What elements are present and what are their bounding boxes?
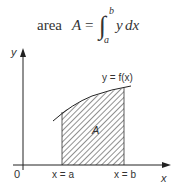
region-label: A	[91, 124, 99, 136]
formula-differential: dx	[125, 17, 140, 33]
area-formula: area A = ∫ b a y dx	[37, 5, 140, 45]
right-bound-label: x = b	[114, 169, 136, 180]
upper-limit: b	[109, 5, 114, 16]
left-bound-label: x = a	[52, 169, 74, 180]
y-axis-arrow-icon	[20, 48, 26, 57]
area-under-curve-diagram: area A = ∫ b a y dx y x 0 y = f(x) A x =…	[0, 0, 176, 186]
formula-variable: A	[71, 17, 82, 33]
lower-limit: a	[104, 34, 109, 45]
formula-prefix: area	[37, 17, 62, 33]
x-axis-arrow-icon	[162, 162, 171, 168]
y-axis-label: y	[10, 46, 18, 58]
formula-equals: =	[85, 17, 93, 33]
formula-integrand: y	[114, 17, 123, 33]
x-axis-label: x	[160, 172, 167, 184]
origin-label: 0	[14, 168, 20, 180]
curve-label: y = f(x)	[102, 72, 133, 83]
